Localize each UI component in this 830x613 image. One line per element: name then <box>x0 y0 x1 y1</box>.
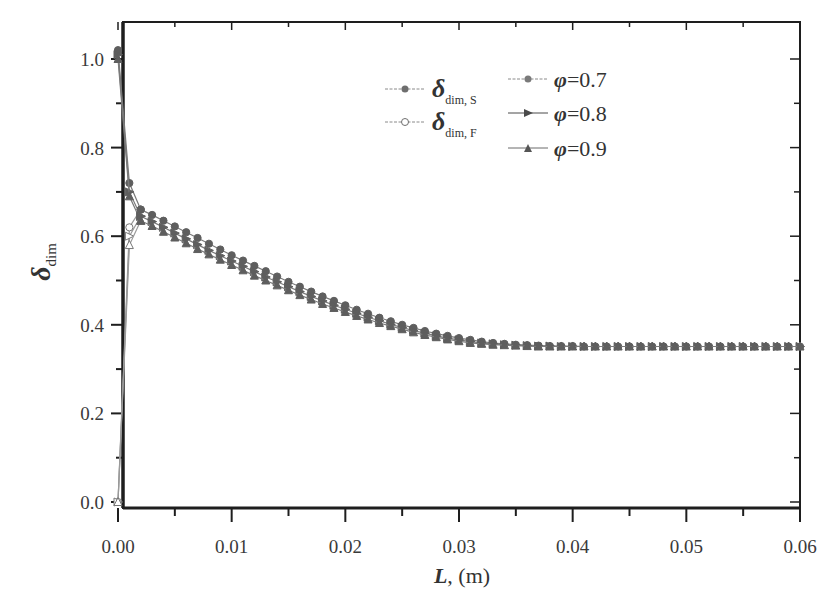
chart: 0.000.010.020.030.040.050.06 0.00.20.40.… <box>0 0 830 613</box>
legend-phi-value: =0.9 <box>567 136 607 161</box>
y-tick-label: 0.8 <box>80 138 104 159</box>
legend-entry-phi-09: φ=0.9 <box>508 136 607 161</box>
svg-text:δdim, S: δdim, S <box>432 74 477 107</box>
legend-entry-dim-s: δdim, S <box>385 74 477 107</box>
y-axis-title: δdim <box>25 243 59 281</box>
series <box>114 55 145 225</box>
series-line <box>141 216 800 346</box>
legend-entry-phi-08: φ=0.8 <box>508 101 607 126</box>
x-tick-label: 0.03 <box>442 536 475 557</box>
y-tick-label: 0.4 <box>80 315 104 336</box>
legend-symbol: δ <box>432 107 445 136</box>
legend-phi-value: =0.8 <box>567 101 607 126</box>
legend-sub: dim, S <box>445 93 476 107</box>
circle-marker-icon <box>149 211 156 218</box>
x-tick-label: 0.02 <box>329 536 362 557</box>
svg-text:L, (m): L, (m) <box>433 563 490 588</box>
svg-text:δdim, F: δdim, F <box>432 107 477 140</box>
legend-entry-phi-07: φ=0.7 <box>508 67 607 92</box>
x-axis-title: L, (m) <box>433 563 490 588</box>
x-axis-title-unit: , (m) <box>447 563 490 588</box>
legend-phi-symbol: φ <box>554 101 567 126</box>
y-axis-title-main: δ <box>25 267 56 281</box>
circle-marker-icon <box>194 234 201 241</box>
y-axis-title-sub: dim <box>43 243 59 267</box>
x-tick-label: 0.00 <box>101 536 134 557</box>
series <box>137 216 804 350</box>
circle-marker-icon <box>160 217 167 224</box>
filled-circle-marker-icon <box>402 86 409 93</box>
series <box>114 212 145 506</box>
y-tick-label: 0.0 <box>80 492 104 513</box>
legend-symbol: δ <box>432 74 445 103</box>
open-circle-marker-icon <box>402 119 409 126</box>
y-tick-label: 0.2 <box>80 403 104 424</box>
circle-marker-icon <box>183 229 190 236</box>
svg-text:φ=0.9: φ=0.9 <box>554 136 607 161</box>
y-tick-label: 1.0 <box>80 49 104 70</box>
legend-entry-dim-f: δdim, F <box>385 107 477 140</box>
circle-marker-icon <box>171 223 178 230</box>
legend-phi-symbol: φ <box>554 67 567 92</box>
legend-phi-symbol: φ <box>554 136 567 161</box>
svg-text:φ=0.7: φ=0.7 <box>554 67 607 92</box>
legend-phi-value: =0.7 <box>567 67 607 92</box>
data-series <box>114 47 805 506</box>
y-tick-label: 0.6 <box>80 226 104 247</box>
legend: δdim, S δdim, F φ=0.7 φ=0.8 <box>385 67 607 161</box>
x-tick-label: 0.04 <box>556 536 590 557</box>
series-line <box>141 221 800 347</box>
right-triangle-marker-icon <box>524 109 533 117</box>
series <box>137 206 803 350</box>
svg-text:φ=0.8: φ=0.8 <box>554 101 607 126</box>
x-tick-label: 0.06 <box>783 536 816 557</box>
legend-sub: dim, F <box>445 126 477 140</box>
circle-marker-icon <box>525 76 532 83</box>
circle-marker-icon <box>205 240 212 247</box>
x-tick-label: 0.01 <box>215 536 248 557</box>
circle-marker-icon <box>137 206 144 213</box>
series-line <box>141 210 800 347</box>
series <box>114 216 145 505</box>
x-axis-title-main: L <box>433 563 447 588</box>
circle-marker-icon <box>126 224 133 231</box>
x-tick-label: 0.05 <box>670 536 703 557</box>
up-triangle-marker-icon <box>125 241 133 249</box>
svg-text:δdim: δdim <box>25 243 59 281</box>
series <box>137 212 805 350</box>
